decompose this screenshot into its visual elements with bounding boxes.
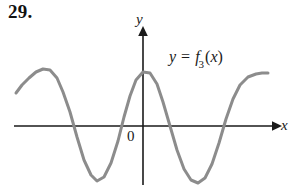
curve-equation-label: y = f3(x) — [169, 49, 223, 68]
equation-argument: x — [210, 48, 217, 65]
equation-operator: = — [180, 48, 191, 65]
origin-label: 0 — [127, 129, 135, 144]
up-arrow-icon — [138, 26, 148, 36]
graph-canvas — [0, 0, 296, 189]
y-axis-label: y — [136, 12, 143, 27]
x-axis-label: x — [281, 118, 288, 133]
figure-page: 29. y x 0 y = f3(x) — [0, 0, 296, 189]
equation-lhs: y — [169, 48, 176, 65]
equation-close-paren: ) — [218, 48, 223, 65]
equation-subscript: 3 — [199, 58, 205, 70]
